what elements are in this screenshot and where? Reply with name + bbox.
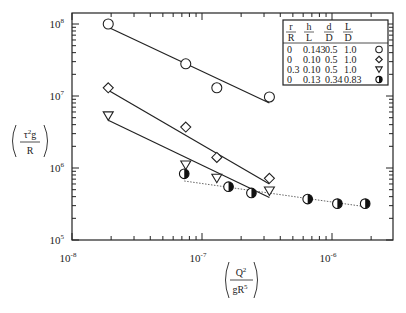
x-tick-label: 10-7 bbox=[190, 251, 207, 264]
legend-header-den: D bbox=[344, 32, 351, 43]
fit-line bbox=[108, 120, 269, 197]
circle-marker-icon bbox=[181, 59, 191, 69]
diamond-marker-icon bbox=[181, 122, 191, 132]
legend: rRhLdDLD00.1430.51.000.100.51.00.30.100.… bbox=[283, 20, 388, 85]
circle-marker-icon bbox=[376, 46, 383, 53]
legend-header-num: d bbox=[327, 21, 332, 32]
legend-cell: 0.34 bbox=[325, 74, 343, 85]
x-label-numerator: Q2 bbox=[236, 266, 247, 278]
x-tick-label: 10-6 bbox=[320, 251, 337, 264]
y-axis-label: τ2gR bbox=[13, 125, 48, 157]
left-paren bbox=[13, 125, 17, 157]
legend-cell: 0.83 bbox=[344, 74, 362, 85]
y-tick-label: 107 bbox=[50, 89, 65, 102]
half-filled-circle-marker-icon bbox=[303, 194, 313, 204]
half-filled-circle-marker-icon bbox=[224, 182, 234, 192]
half-filled-circle-marker-icon bbox=[333, 199, 343, 209]
right-paren bbox=[254, 262, 258, 298]
y-label-numerator: τ2g bbox=[24, 128, 37, 140]
x-label-denominator: gR5 bbox=[232, 283, 248, 295]
triangle-marker-icon bbox=[181, 161, 191, 170]
x-axis-label: Q2gR5 bbox=[226, 262, 258, 298]
legend-header-num: h bbox=[307, 21, 312, 32]
y-tick-label: 108 bbox=[50, 17, 65, 30]
legend-cell: 0.13 bbox=[303, 74, 321, 85]
x-tick-label: 10-8 bbox=[60, 251, 77, 264]
y-tick-label: 105 bbox=[50, 233, 65, 246]
legend-header-den: R bbox=[288, 32, 295, 43]
half-filled-circle-marker-icon bbox=[179, 169, 189, 179]
triangle-marker-icon bbox=[103, 112, 113, 121]
circle-marker-icon bbox=[264, 92, 274, 102]
chart: 10510610710810-810-710-6 rRhLdDLD00.1430… bbox=[0, 0, 406, 313]
diamond-marker-icon bbox=[212, 152, 222, 162]
circle-marker-icon bbox=[103, 19, 113, 29]
diamond-marker-icon bbox=[103, 83, 113, 93]
right-paren bbox=[44, 125, 48, 157]
legend-header-den: L bbox=[306, 32, 312, 43]
legend-cell: 0 bbox=[287, 74, 292, 85]
legend-header-den: D bbox=[325, 32, 332, 43]
legend-header-num: L bbox=[345, 21, 351, 32]
left-paren bbox=[226, 262, 230, 298]
half-filled-circle-marker-icon bbox=[376, 76, 382, 82]
half-filled-circle-marker-icon bbox=[247, 188, 257, 198]
y-tick-label: 106 bbox=[50, 161, 65, 174]
triangle-marker-icon bbox=[264, 187, 274, 196]
y-label-denominator: R bbox=[27, 145, 34, 156]
half-filled-circle-marker-icon bbox=[360, 199, 370, 209]
triangle-marker-icon bbox=[212, 174, 222, 183]
circle-marker-icon bbox=[212, 83, 222, 93]
fit-line bbox=[108, 90, 269, 184]
